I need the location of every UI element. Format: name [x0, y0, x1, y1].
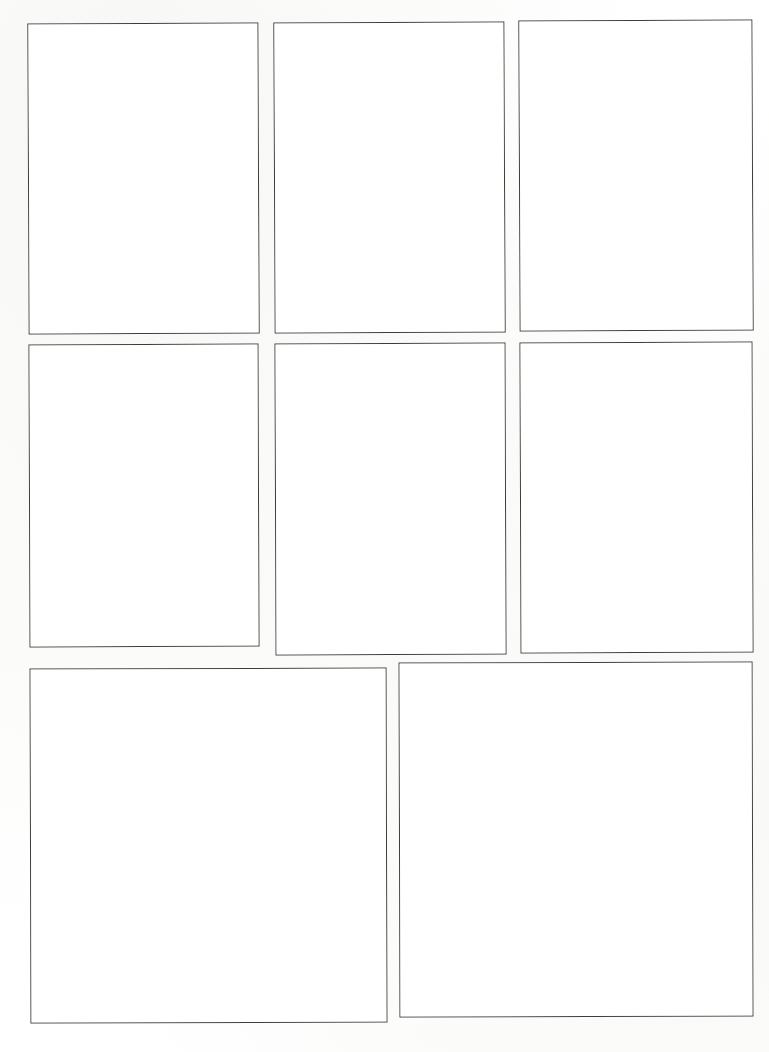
panel-content[interactable] [274, 23, 504, 333]
panel-content[interactable] [31, 669, 387, 1023]
comic-panel[interactable] [28, 344, 259, 648]
comic-panel[interactable] [273, 21, 505, 333]
panel-content[interactable] [275, 344, 505, 655]
panel-content[interactable] [28, 24, 258, 334]
comic-panel[interactable] [518, 19, 753, 331]
comic-page [0, 0, 769, 1052]
comic-panel[interactable] [274, 343, 506, 656]
panel-content[interactable] [519, 20, 752, 330]
panel-content[interactable] [29, 345, 258, 647]
comic-panel[interactable] [27, 22, 259, 334]
panel-content[interactable] [400, 663, 753, 1017]
comic-panel[interactable] [519, 342, 753, 654]
comic-panel[interactable] [30, 668, 388, 1024]
panel-content[interactable] [520, 343, 752, 653]
comic-panel[interactable] [399, 662, 754, 1018]
